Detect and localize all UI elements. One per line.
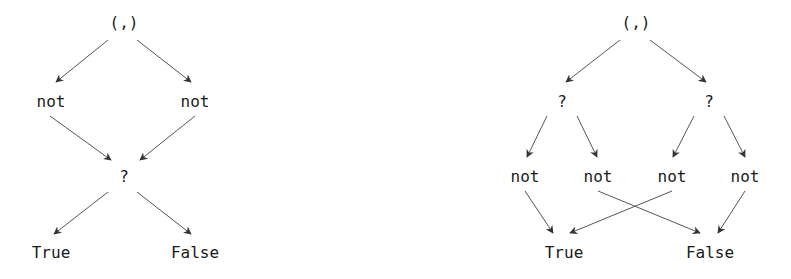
node-not3: not [658, 167, 687, 186]
node-false: False [686, 243, 734, 262]
node-pair: (,) [110, 13, 139, 32]
node-true: True [32, 243, 71, 262]
diagram-canvas: (,)notnot?TrueFalse (,)??notnotnotnotTru… [0, 0, 791, 279]
edge-pair-to-q1 [566, 40, 620, 82]
node-q: ? [119, 167, 129, 186]
edge-q1-to-not1 [527, 116, 547, 157]
edge-not4-to-false [718, 191, 745, 233]
node-not2: not [181, 92, 210, 111]
edge-q2-to-not4 [724, 116, 745, 157]
edge-q-to-true [54, 192, 108, 234]
edge-pair-to-q2 [650, 40, 706, 82]
edge-q2-to-not3 [673, 116, 694, 157]
edge-not1-to-true [525, 191, 553, 233]
edge-q-to-false [137, 192, 191, 234]
edge-not1-to-q [50, 116, 111, 160]
node-q1: ? [557, 92, 567, 111]
edge-not2-to-false [598, 191, 700, 233]
node-pair: (,) [622, 13, 651, 32]
node-not2: not [584, 167, 613, 186]
edge-not2-to-q [140, 116, 195, 160]
edge-pair-to-not1 [56, 40, 108, 82]
node-not1: not [37, 92, 66, 111]
node-q2: ? [704, 92, 714, 111]
node-not1: not [511, 167, 540, 186]
node-false: False [171, 243, 219, 262]
edge-not3-to-true [570, 191, 672, 233]
edge-q1-to-not2 [577, 116, 597, 157]
node-not4: not [731, 167, 760, 186]
node-true: True [545, 243, 584, 262]
edge-pair-to-not2 [137, 40, 191, 82]
right-diagram: (,)??notnotnotnotTrueFalse [511, 13, 760, 262]
left-diagram: (,)notnot?TrueFalse [32, 13, 219, 262]
